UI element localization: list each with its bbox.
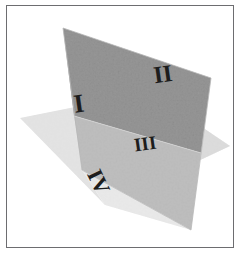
quadrant-label-ii: II xyxy=(152,60,174,88)
figure-canvas: I II III IV xyxy=(7,6,233,247)
figure-root: I II III IV xyxy=(0,0,241,255)
quadrants-diagram: I II III IV xyxy=(7,6,233,247)
quadrant-label-iii: III xyxy=(133,132,158,156)
